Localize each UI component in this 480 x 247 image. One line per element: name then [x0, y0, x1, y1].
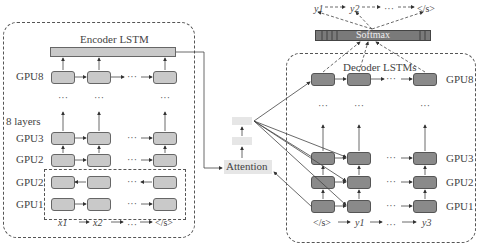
connector-lines	[0, 0, 480, 247]
